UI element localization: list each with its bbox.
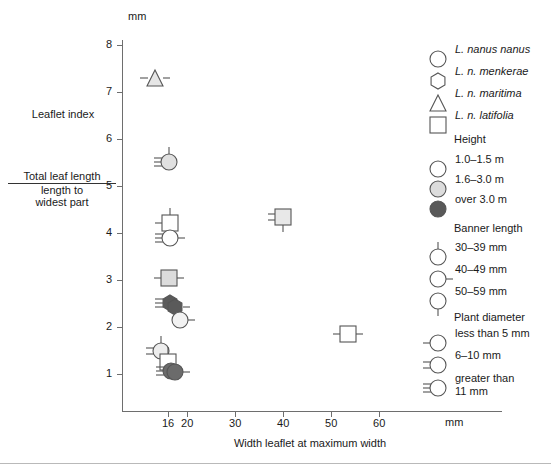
chart-figure: mm 12345678 162030405060 mm Width leafle… (0, 0, 551, 473)
legend-diameter-label-0: less than 5 mm (455, 327, 530, 339)
y-tick-label: 3 (92, 273, 112, 285)
legend-diameter-label-2: greater than (455, 372, 514, 384)
y-axis-unit: mm (128, 10, 146, 22)
y-tick (117, 45, 123, 46)
legend-diameter-label-2-line2: 11 mm (455, 385, 488, 397)
legend-species-label-1: L. n. menkerae (455, 65, 528, 77)
y-tick (117, 233, 123, 234)
data-point (143, 136, 195, 192)
y-tick (117, 92, 123, 93)
legend-banner-label-0: 30–39 mm (455, 241, 507, 253)
y-tick (117, 280, 123, 281)
bottom-divider (0, 463, 551, 464)
y-tick (117, 186, 123, 187)
y-tick-label: 6 (92, 132, 112, 144)
x-tick-label: 60 (359, 417, 399, 429)
y-tick (117, 374, 123, 375)
y-axis-title-line1: Leaflet index (32, 108, 94, 120)
data-point (129, 52, 181, 108)
y-tick-label: 7 (92, 85, 112, 97)
y-axis-denominator-line2: widest part (8, 196, 116, 208)
y-tick (117, 327, 123, 328)
y-tick-label: 4 (92, 226, 112, 238)
y-axis-title-fraction: Total leaf length length to widest part (8, 170, 116, 208)
y-axis-title-main: Leaflet index (18, 108, 108, 120)
y-tick-label: 8 (92, 38, 112, 50)
x-tick-label: 20 (167, 417, 207, 429)
y-tick-label: 1 (92, 367, 112, 379)
y-axis-numerator: Total leaf length (8, 170, 116, 184)
legend-species-label-0: L. nanus nanus (455, 43, 530, 55)
legend-banner-title: Banner length (454, 222, 523, 234)
data-point (322, 308, 374, 364)
legend-banner-label-2: 50–59 mm (455, 285, 507, 297)
legend-diameter-title: Plant diameter (454, 311, 525, 323)
x-tick-label: 40 (263, 417, 303, 429)
legend-banner-label-1: 40–49 mm (455, 263, 507, 275)
data-point (257, 191, 309, 247)
legend-height-label-2: over 3.0 m (455, 193, 507, 205)
y-axis-denominator-line1: length to (8, 184, 116, 196)
legend-diameter-label-1: 6–10 mm (455, 349, 501, 361)
y-tick-label: 2 (92, 320, 112, 332)
legend-species-label-2: L. n. maritima (455, 87, 522, 99)
data-point (149, 346, 201, 402)
legend-species-label-3: L. n. latifolia (455, 109, 514, 121)
x-axis-title: Width leaflet at maximum width (165, 437, 455, 449)
y-tick (117, 139, 123, 140)
x-tick-label: 30 (215, 417, 255, 429)
x-tick-label: 50 (311, 417, 351, 429)
y-axis-line (122, 40, 123, 412)
